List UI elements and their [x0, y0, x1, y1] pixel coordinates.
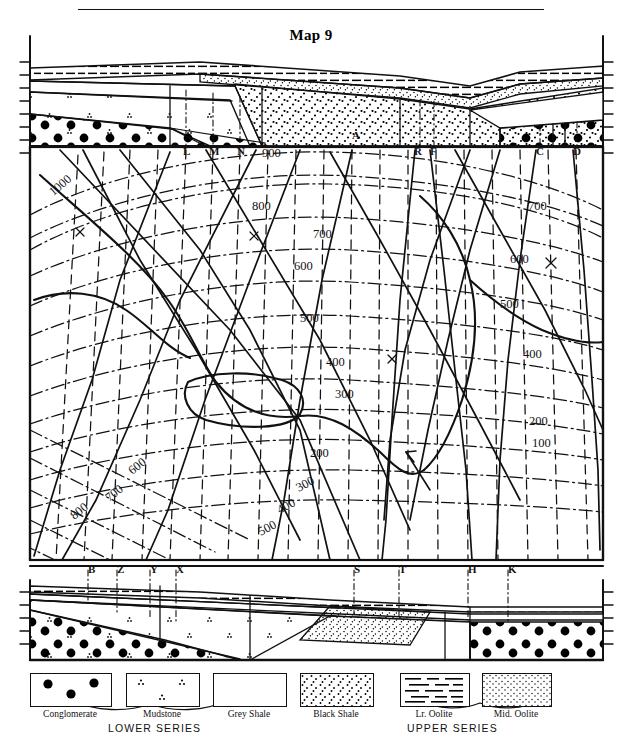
- legend-label-grey-shale: Grey Shale: [211, 709, 287, 719]
- map-letter: K: [508, 563, 517, 575]
- map-letter: F: [430, 145, 437, 157]
- map-letter: T: [399, 563, 406, 575]
- map-letter: Y: [150, 563, 158, 575]
- contour-label: 600: [294, 259, 313, 274]
- legend-label-mudstone: Mudstone: [124, 709, 200, 719]
- legend: Conglomerate Mudstone Grey Shale Black S…: [0, 668, 622, 739]
- contour-label: 700: [313, 227, 332, 242]
- geological-map-figure: [0, 0, 622, 739]
- map-letter: X: [176, 563, 184, 575]
- map-page: Map 9: [0, 0, 622, 739]
- contour-label: 800: [252, 199, 271, 214]
- legend-series-lower: LOWER SERIES: [108, 722, 201, 734]
- map-letter: L: [183, 145, 190, 157]
- left-scale-ticks: [20, 62, 30, 153]
- left-scale-ticks-lower: [20, 592, 30, 644]
- contour-label: 500: [500, 297, 519, 312]
- contour-label: 700: [528, 199, 547, 214]
- right-scale-ticks-lower: [603, 592, 613, 644]
- bottom-cross-section: [30, 566, 603, 660]
- legend-label-lr-oolite: Lr. Oolite: [398, 709, 470, 719]
- legend-label-black-shale: Black Shale: [298, 709, 374, 719]
- contour-label: 200: [529, 414, 548, 429]
- contour-label: 400: [523, 347, 542, 362]
- legend-swatch-conglomerate: [30, 673, 112, 707]
- legend-swatch-mid-oolite: [482, 673, 552, 707]
- contour-label: 500: [300, 311, 319, 326]
- contour-label: 300: [335, 387, 354, 402]
- legend-swatch-black-shale: [300, 673, 374, 707]
- map-letter: D: [573, 145, 581, 157]
- contour-label: 100: [532, 436, 551, 451]
- legend-label-mid-oolite: Mid. Oolite: [480, 709, 552, 719]
- map-letter: C: [536, 145, 544, 157]
- contour-label: 600: [510, 252, 529, 267]
- map-letter: N: [237, 145, 245, 157]
- map-letter: R: [414, 145, 422, 157]
- right-scale-ticks: [603, 62, 613, 153]
- contour-label: 200: [310, 446, 329, 461]
- contour-label: 900: [262, 146, 281, 161]
- legend-label-conglomerate: Conglomerate: [26, 709, 114, 719]
- map-letter: H: [468, 563, 477, 575]
- map-letter: B: [88, 563, 95, 575]
- contour-label: 400: [326, 355, 345, 370]
- legend-swatch-mudstone: [126, 673, 200, 707]
- legend-swatch-lr-oolite: [400, 673, 470, 707]
- map-letter: S: [354, 563, 360, 575]
- legend-series-upper: UPPER SERIES: [407, 722, 498, 734]
- map-letter: M: [209, 145, 219, 157]
- map-letter: Z: [117, 563, 124, 575]
- top-cross-section: [30, 62, 603, 147]
- legend-swatch-grey-shale: [213, 673, 287, 707]
- map-letter: A: [352, 129, 360, 141]
